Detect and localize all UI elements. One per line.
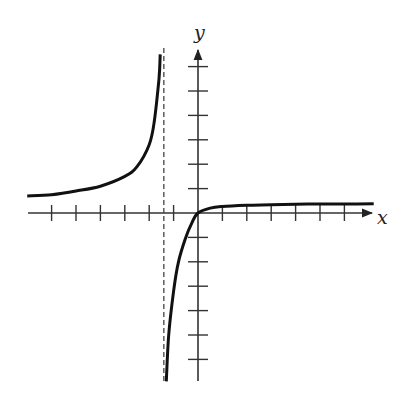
- y-axis-label: y: [193, 21, 205, 43]
- curve-left-branch: [27, 54, 160, 196]
- x-axis-label: x: [377, 206, 388, 228]
- function-graph: x y: [0, 0, 410, 402]
